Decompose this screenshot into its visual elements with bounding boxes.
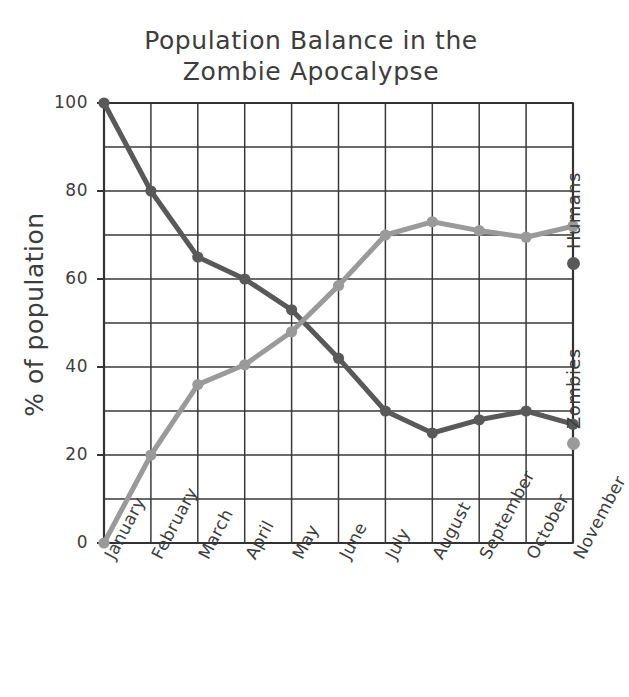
legend-label-zombies: Zombies — [563, 348, 584, 429]
y-tick-label-60: 60 — [42, 268, 88, 288]
y-tick-label-0: 0 — [42, 532, 88, 552]
data-point-zombies-march — [192, 379, 203, 390]
legend-item-humans[interactable]: Humans — [560, 60, 586, 270]
data-point-humans-february — [145, 185, 156, 196]
data-point-zombies-june — [333, 280, 344, 291]
y-tick-label-20: 20 — [42, 444, 88, 464]
data-point-zombies-february — [145, 449, 156, 460]
data-point-zombies-august — [427, 216, 438, 227]
y-tick-label-80: 80 — [42, 180, 88, 200]
data-point-humans-april — [239, 273, 250, 284]
y-tick-label-40: 40 — [42, 356, 88, 376]
data-point-zombies-april — [239, 359, 250, 370]
data-point-humans-october — [521, 405, 532, 416]
data-point-zombies-september — [474, 225, 485, 236]
data-point-zombies-july — [380, 229, 391, 240]
data-point-humans-june — [333, 353, 344, 364]
data-point-zombies-may — [286, 326, 297, 337]
data-point-humans-september — [474, 414, 485, 425]
data-point-humans-march — [192, 251, 203, 262]
data-point-humans-january — [98, 97, 109, 108]
chart-legend: Humans Zombies — [560, 200, 618, 470]
legend-label-humans: Humans — [563, 172, 584, 249]
data-point-humans-may — [286, 304, 297, 315]
grid-lines — [104, 103, 573, 543]
data-point-humans-july — [380, 405, 391, 416]
legend-marker-zombies-icon — [567, 437, 580, 450]
y-tick-label-100: 100 — [42, 92, 88, 112]
legend-item-zombies[interactable]: Zombies — [560, 240, 586, 450]
data-point-humans-august — [427, 427, 438, 438]
data-point-zombies-october — [521, 232, 532, 243]
